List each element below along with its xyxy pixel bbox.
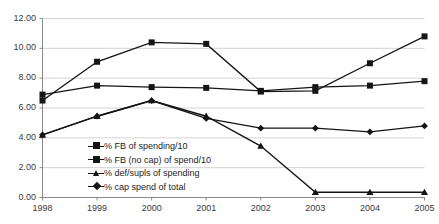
y-axis-tick-label: 2.00 <box>0 162 36 172</box>
x-axis-tick-label: 2002 <box>239 203 283 213</box>
data-point <box>94 83 100 89</box>
y-axis-tick-label: 10.00 <box>0 42 36 52</box>
data-point <box>203 85 209 91</box>
data-point <box>367 128 374 135</box>
legend-glyph <box>93 142 100 149</box>
x-axis-tick-label: 2004 <box>348 203 392 213</box>
data-point <box>40 92 46 98</box>
data-point <box>149 39 155 45</box>
x-axis-tick-label: 2000 <box>130 203 174 213</box>
data-point <box>203 41 209 47</box>
x-axis-tick-label: 1999 <box>75 203 119 213</box>
legend-glyph <box>93 170 99 176</box>
data-point <box>422 33 428 39</box>
legend-marker-diamond-icon <box>88 182 104 192</box>
legend-item[interactable]: % cap spend of total <box>88 181 228 193</box>
data-point <box>149 84 155 90</box>
legend-marker-triangle-icon <box>88 168 104 178</box>
legend-marker-square-icon <box>88 155 104 165</box>
x-axis-tick-label: 1998 <box>21 203 65 213</box>
y-axis-tick-label: 0.00 <box>0 192 36 202</box>
series-1 <box>40 78 428 97</box>
data-point <box>40 98 46 104</box>
y-axis-tick-label: 12.00 <box>0 13 36 23</box>
series-4 <box>39 97 428 138</box>
series-line <box>43 36 425 100</box>
legend-glyph <box>92 182 100 190</box>
legend-glyph <box>93 156 100 163</box>
chart-legend: % FB of spending/10% FB (no cap) of spen… <box>88 140 228 194</box>
data-point <box>257 142 264 148</box>
data-point <box>422 78 428 84</box>
y-axis-tick-label: 8.00 <box>0 72 36 82</box>
legend-marker-square-icon <box>88 141 104 151</box>
legend-item-label: % FB of spending/10 <box>104 141 188 151</box>
data-point <box>258 89 264 95</box>
y-axis-tick-label: 6.00 <box>0 102 36 112</box>
data-point <box>367 60 373 66</box>
series-2 <box>40 33 428 103</box>
data-point <box>257 125 264 132</box>
legend-item-label: % FB (no cap) of spend/10 <box>104 155 211 165</box>
x-axis-tick-label: 2003 <box>293 203 337 213</box>
legend-item-label: % def/supls of spending <box>104 168 200 178</box>
data-point <box>367 83 373 89</box>
x-axis-tick-label: 2001 <box>184 203 228 213</box>
legend-item[interactable]: % FB of spending/10 <box>88 140 228 152</box>
legend-item[interactable]: % def/supls of spending <box>88 167 228 179</box>
y-axis-tick-label: 4.00 <box>0 132 36 142</box>
data-point <box>312 88 318 94</box>
data-point <box>312 125 319 132</box>
legend-item[interactable]: % FB (no cap) of spend/10 <box>88 154 228 166</box>
data-point <box>94 59 100 65</box>
legend-item-label: % cap spend of total <box>104 182 186 192</box>
data-point <box>421 123 428 130</box>
x-axis-tick-label: 2005 <box>403 203 439 213</box>
